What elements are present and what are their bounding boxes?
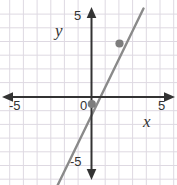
x-axis-max-label: 5 [158,99,165,112]
x-axis [2,92,175,102]
graph-canvas [0,0,177,185]
x-axis-variable-label: x [143,113,151,130]
y-axis-variable-label: y [55,22,63,39]
data-point-marker [115,39,123,47]
coordinate-plane-figure: 5 -5 -5 5 0 y x [0,0,177,185]
data-point-marker [88,100,96,108]
origin-label: 0 [80,99,87,112]
y-axis-min-label: -5 [70,155,82,168]
y-axis [87,7,97,180]
x-axis-min-label: -5 [9,99,21,112]
grid-lines [0,0,177,185]
y-axis-max-label: 5 [74,9,81,22]
